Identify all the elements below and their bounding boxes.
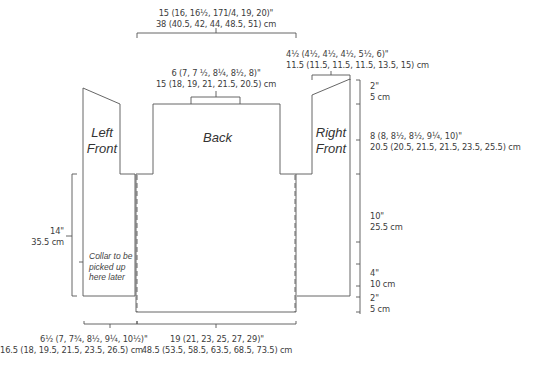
back-hem-measurement: 2" 5 cm bbox=[370, 293, 390, 314]
front-hem-inches: 4" bbox=[370, 268, 395, 279]
collar-note-line1: Collar to be bbox=[89, 251, 132, 262]
right-front-label: Right Front bbox=[311, 125, 351, 157]
back-width-inches: 19 (21, 23, 25, 27, 29)" bbox=[137, 334, 297, 345]
front-width-inches: 6½ (7, 7¾, 8½, 9¼, 10½)" bbox=[0, 334, 135, 345]
right-front-outline bbox=[296, 79, 350, 296]
collar-note-line3: here later bbox=[89, 272, 132, 283]
shoulder-slope-measurement: 2" 5 cm bbox=[370, 81, 390, 102]
top-width-inches: 15 (16, 16½, 171/4, 19, 20)" bbox=[136, 8, 296, 19]
front-width-cm: 16.5 (18, 19.5, 21.5, 23.5, 26.5) cm bbox=[0, 345, 135, 356]
neck-width-measurement: 6 (7, 7 ½, 8¼, 8½, 8)" 15 (18, 19, 21, 2… bbox=[136, 68, 296, 89]
right-front-label-line2: Front bbox=[311, 141, 351, 157]
front-length-inches: 14" bbox=[20, 226, 64, 237]
neck-width-inches: 6 (7, 7 ½, 8¼, 8½, 8)" bbox=[136, 68, 296, 79]
side-length-cm: 25.5 cm bbox=[370, 222, 403, 233]
armhole-depth-inches: 8 (8, 8½, 8½, 9¼, 10)" bbox=[370, 131, 521, 142]
front-width-measurement: 6½ (7, 7¾, 8½, 9¼, 10½)" 16.5 (18, 19.5,… bbox=[0, 334, 135, 355]
shoulder-width-measurement: 4½ (4½, 4½, 4½, 5½, 6)" 11.5 (11.5, 11.5… bbox=[286, 49, 429, 70]
armhole-depth-measurement: 8 (8, 8½, 8½, 9¼, 10)" 20.5 (20.5, 21.5,… bbox=[370, 131, 521, 152]
left-front-label: Left Front bbox=[82, 125, 122, 157]
shoulder-width-inches: 4½ (4½, 4½, 4½, 5½, 6)" bbox=[286, 49, 429, 60]
front-hem-measurement: 4" 10 cm bbox=[370, 268, 395, 289]
left-front-label-line2: Front bbox=[82, 141, 122, 157]
collar-note: Collar to be picked up here later bbox=[89, 251, 132, 283]
front-hem-cm: 10 cm bbox=[370, 279, 395, 290]
back-width-measurement: 19 (21, 23, 25, 27, 29)" 48.5 (53.5, 58.… bbox=[137, 334, 297, 355]
back-hem-cm: 5 cm bbox=[370, 304, 390, 315]
top-width-cm: 38 (40.5, 42, 44, 48.5, 51) cm bbox=[136, 19, 296, 30]
side-length-measurement: 10" 25.5 cm bbox=[370, 211, 403, 232]
top-width-measurement: 15 (16, 16½, 171/4, 19, 20)" 38 (40.5, 4… bbox=[136, 8, 296, 29]
side-length-inches: 10" bbox=[370, 211, 403, 222]
collar-note-line2: picked up bbox=[89, 262, 132, 273]
schematic-drawing bbox=[0, 0, 535, 377]
back-width-cm: 48.5 (53.5, 58.5, 63.5, 68.5, 73.5) cm bbox=[137, 345, 297, 356]
front-length-measurement: 14" 35.5 cm bbox=[20, 226, 64, 247]
front-length-cm: 35.5 cm bbox=[20, 237, 64, 248]
right-front-label-line1: Right bbox=[311, 125, 351, 141]
armhole-depth-cm: 20.5 (20.5, 21.5, 21.5, 23.5, 25.5) cm bbox=[370, 142, 521, 153]
shoulder-slope-inches: 2" bbox=[370, 81, 390, 92]
left-front-label-line1: Left bbox=[82, 125, 122, 141]
shoulder-width-cm: 11.5 (11.5, 11.5, 11.5, 13.5, 15) cm bbox=[286, 60, 429, 71]
neck-width-cm: 15 (18, 19, 21, 21.5, 20.5) cm bbox=[136, 79, 296, 90]
back-hem-inches: 2" bbox=[370, 293, 390, 304]
back-label: Back bbox=[190, 130, 245, 146]
shoulder-slope-cm: 5 cm bbox=[370, 92, 390, 103]
